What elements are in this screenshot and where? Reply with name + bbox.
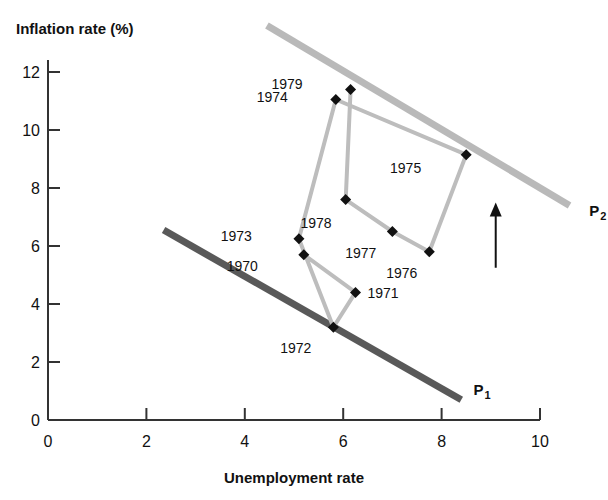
- point-label-1976: 1976: [386, 265, 417, 281]
- marker-1979[interactable]: [345, 84, 356, 95]
- chart-canvas: 024681012 0246810 Inflation rate (%) Une…: [0, 0, 608, 500]
- y-axis-ticks: [48, 72, 60, 362]
- curve-label-P1: P1: [474, 381, 491, 401]
- point-label-1970: 1970: [227, 258, 258, 274]
- y-axis-tick-labels: 024681012: [22, 64, 40, 429]
- x-tick-label-2: 2: [142, 433, 151, 450]
- curve-label-base-P2: P2: [589, 202, 606, 222]
- point-label-1975: 1975: [390, 160, 421, 176]
- point-label-1977: 1977: [345, 245, 376, 261]
- curve-label-P2: P2: [589, 202, 606, 222]
- point-label-1979: 1979: [271, 76, 302, 92]
- y-tick-label-0: 0: [31, 412, 40, 429]
- x-tick-label-0: 0: [44, 433, 53, 450]
- curve-label-base-P1: P1: [474, 381, 491, 401]
- point-label-1971: 1971: [368, 285, 399, 301]
- shift-arrow: [490, 203, 502, 268]
- x-axis-tick-labels: 0246810: [44, 433, 549, 450]
- y-tick-label-10: 10: [22, 122, 40, 139]
- phillips-curve-chart: 024681012 0246810 Inflation rate (%) Une…: [0, 0, 608, 500]
- data-point-labels-group: 1970197119721973197419751976197719781979: [221, 76, 422, 356]
- y-tick-label-6: 6: [31, 238, 40, 255]
- point-label-1973: 1973: [221, 228, 252, 244]
- x-tick-label-8: 8: [437, 433, 446, 450]
- y-axis-title: Inflation rate (%): [16, 20, 134, 37]
- y-tick-label-12: 12: [22, 64, 40, 81]
- point-label-1972: 1972: [280, 340, 311, 356]
- y-tick-label-4: 4: [31, 296, 40, 313]
- curve-labels-group: P1P2: [474, 202, 607, 402]
- x-axis-ticks: [146, 408, 540, 420]
- curve-label-sub-P1: 1: [485, 389, 491, 401]
- x-tick-label-4: 4: [240, 433, 249, 450]
- point-label-1978: 1978: [301, 215, 332, 231]
- shift-arrow-head: [490, 203, 502, 217]
- axes-group: [48, 60, 540, 420]
- y-tick-label-8: 8: [31, 180, 40, 197]
- marker-1974[interactable]: [330, 94, 341, 105]
- curve-line-P2: [267, 26, 570, 206]
- marker-1973[interactable]: [293, 233, 304, 244]
- marker-1975[interactable]: [461, 149, 472, 160]
- y-tick-label-2: 2: [31, 354, 40, 371]
- curve-label-sub-P2: 2: [600, 210, 606, 222]
- x-axis-title: Unemployment rate: [224, 469, 364, 486]
- x-tick-label-10: 10: [531, 433, 549, 450]
- curve-line-P1: [164, 230, 462, 400]
- x-tick-label-6: 6: [339, 433, 348, 450]
